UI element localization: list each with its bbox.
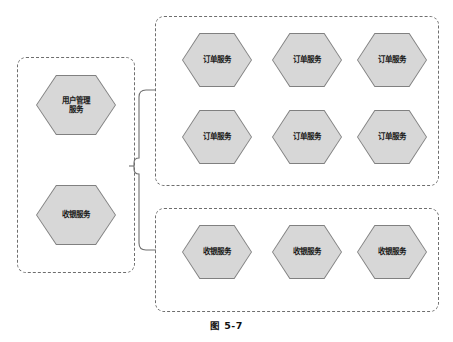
node-label-order-service-1: 订单服务 xyxy=(203,55,232,64)
node-label-order-service-3: 订单服务 xyxy=(378,55,407,64)
node-label-order-service-2: 订单服务 xyxy=(293,55,322,64)
figure-caption: 图 5-7 xyxy=(0,318,453,332)
node-label-order-service-4: 订单服务 xyxy=(203,132,232,141)
node-label-cashier-service-3: 收银服务 xyxy=(378,247,407,256)
node-label-cashier-service-2: 收银服务 xyxy=(293,247,322,256)
node-label-user-management-service: 用户管理 服务 xyxy=(62,96,91,115)
node-label-order-service-6: 订单服务 xyxy=(378,132,407,141)
connector-brace-to-order xyxy=(134,90,156,166)
node-label-order-service-5: 订单服务 xyxy=(293,132,322,141)
node-label-cashier-service-source: 收银服务 xyxy=(62,210,91,219)
connector-brace-to-cashier xyxy=(134,166,156,250)
node-label-cashier-service-1: 收银服务 xyxy=(203,247,232,256)
diagram-canvas: 用户管理 服务 收银服务 订单服务 订单服务 订单服务 订单服务 订单服务 订单… xyxy=(0,0,453,342)
